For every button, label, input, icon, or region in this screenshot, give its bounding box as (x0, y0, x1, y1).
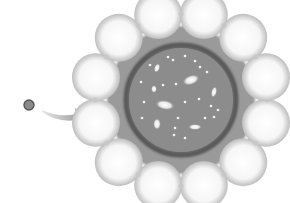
bubble-node (104, 55, 109, 60)
bubble-node (222, 23, 227, 28)
star (175, 83, 178, 86)
bubble-cell (242, 53, 290, 101)
bubble-node (179, 12, 184, 17)
source-dot (24, 100, 34, 110)
bubble-cell (72, 99, 120, 147)
bubble-node (93, 98, 98, 103)
star (217, 109, 220, 112)
bubble-node (104, 141, 109, 146)
star (184, 101, 187, 104)
star (141, 117, 144, 120)
star (198, 98, 201, 101)
bubble-node (222, 172, 227, 177)
universe-expansion-diagram (0, 0, 290, 203)
star (162, 84, 165, 87)
galaxy (188, 124, 202, 130)
diagram-canvas (0, 0, 290, 203)
star (213, 116, 216, 119)
star (167, 56, 170, 59)
star (177, 117, 180, 120)
universe (72, 0, 290, 203)
star (173, 134, 176, 137)
star (199, 66, 202, 69)
star (149, 64, 152, 67)
star (210, 105, 213, 108)
star (140, 81, 143, 84)
bubble-node (179, 184, 184, 189)
bubble-node (253, 55, 258, 60)
star (204, 117, 207, 120)
bubble-node (136, 23, 141, 28)
bubble-node (253, 141, 258, 146)
star (206, 71, 209, 74)
star (172, 59, 175, 62)
star (143, 101, 146, 104)
galaxy (151, 85, 157, 93)
bubble-node (136, 172, 141, 177)
star (194, 60, 197, 63)
star (174, 127, 177, 130)
galaxy (153, 118, 161, 130)
star (184, 137, 187, 140)
star (184, 55, 187, 58)
